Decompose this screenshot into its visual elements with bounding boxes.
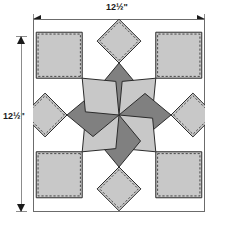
arrow-down-icon	[17, 204, 25, 212]
star-diamond-light-7	[82, 78, 119, 115]
corner-square-bottom-right	[156, 152, 202, 198]
corner-square-top-left	[36, 32, 82, 78]
width-dimension-label: 12½"	[106, 3, 128, 12]
corner-square-top-right	[156, 32, 202, 78]
corner-square-bottom-left	[36, 152, 82, 198]
quilt-pieces-canvas	[33, 19, 205, 212]
arrow-up-icon	[17, 36, 25, 44]
on-point-square-top	[97, 19, 141, 63]
quilt-block-diagram: 12½" 12½"	[0, 0, 236, 233]
on-point-square-right	[171, 93, 205, 137]
height-dimension-line	[21, 36, 22, 212]
on-point-square-left	[33, 93, 67, 137]
on-point-square-bottom	[97, 167, 141, 211]
